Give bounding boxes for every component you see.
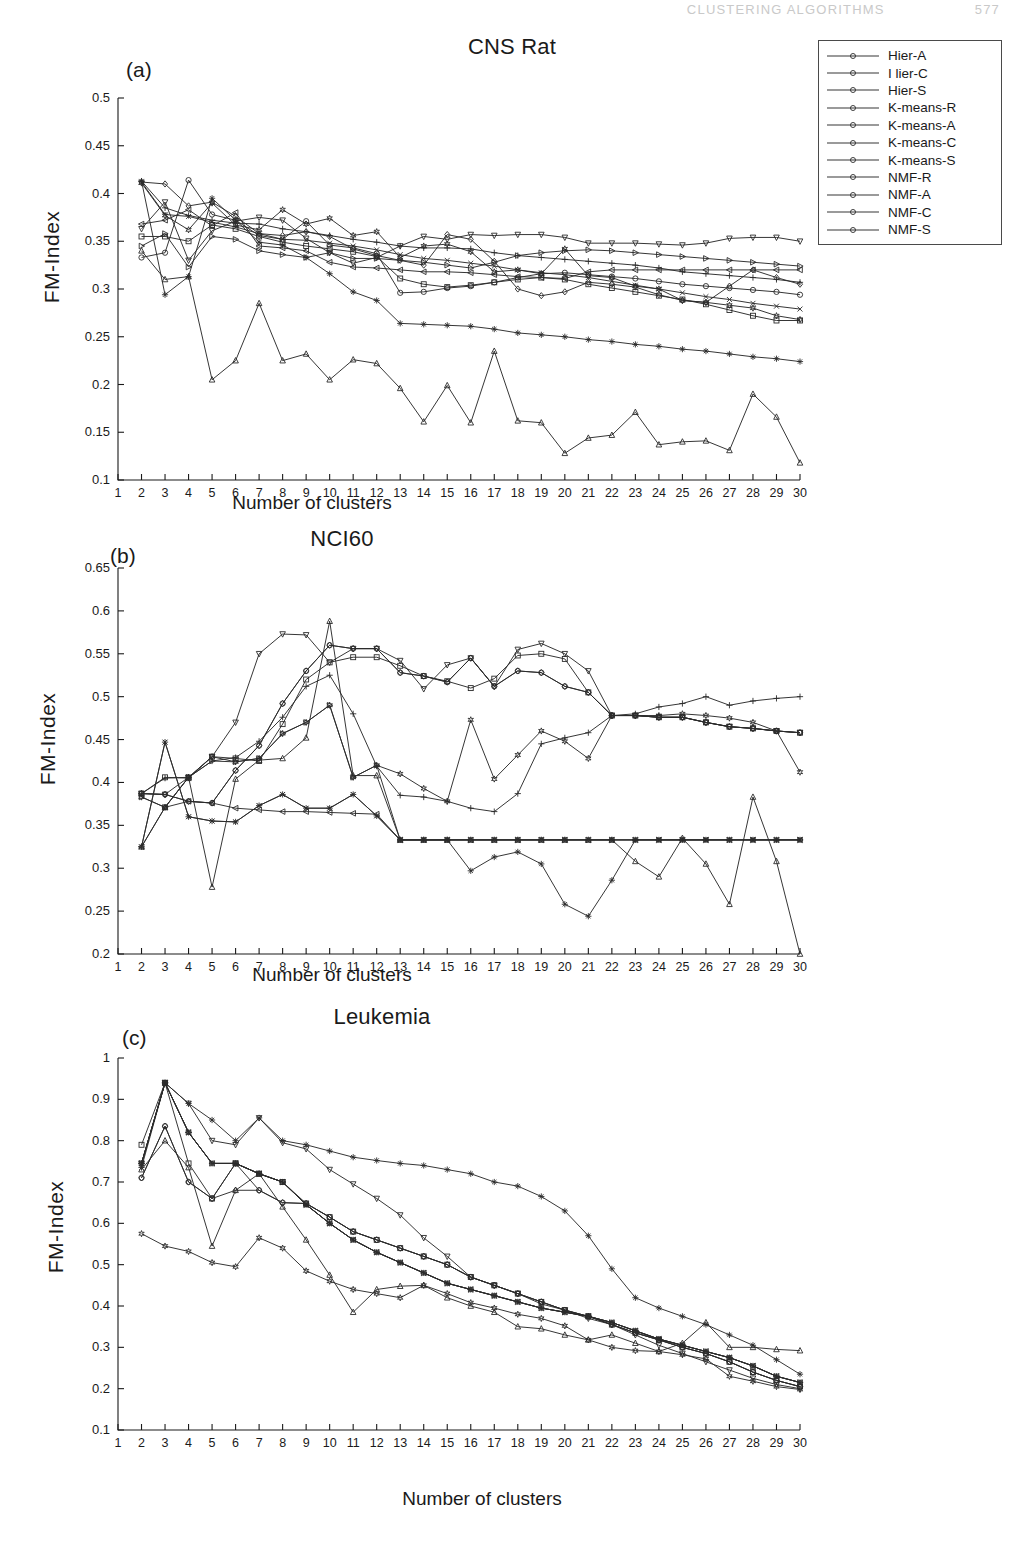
svg-text:4: 4 [185, 1436, 192, 1450]
legend-item-k-means-a: K-means-A [825, 117, 993, 134]
legend-item-label: I lier-C [888, 66, 928, 81]
svg-text:16: 16 [464, 1436, 478, 1450]
svg-text:0.65: 0.65 [85, 560, 110, 575]
cross-icon [825, 117, 881, 133]
svg-text:0.5: 0.5 [92, 689, 110, 704]
svg-text:2: 2 [138, 1436, 145, 1450]
svg-text:23: 23 [628, 1436, 642, 1450]
legend-item-hier-s: Hier-S [825, 82, 993, 99]
legend: Hier-AI lier-CHier-SK-means-RK-means-AK-… [818, 40, 1002, 245]
svg-text:25: 25 [675, 1436, 689, 1450]
svg-text:0.25: 0.25 [85, 903, 110, 918]
diamond-icon [825, 152, 881, 168]
svg-text:8: 8 [279, 1436, 286, 1450]
svg-text:0.3: 0.3 [92, 281, 110, 296]
svg-text:5: 5 [209, 1436, 216, 1450]
panel-b-xlabel: Number of clusters [0, 964, 844, 986]
svg-text:0.45: 0.45 [85, 138, 110, 153]
legend-item-label: K-means-C [888, 135, 956, 150]
running-head: CLUSTERING ALGORITHMS 577 [0, 2, 1024, 20]
svg-text:12: 12 [370, 1436, 384, 1450]
svg-text:0.35: 0.35 [85, 817, 110, 832]
legend-item-label: K-means-R [888, 100, 956, 115]
svg-text:22: 22 [605, 1436, 619, 1450]
svg-text:0.2: 0.2 [92, 377, 110, 392]
svg-text:24: 24 [652, 1436, 666, 1450]
legend-item-hier-a: Hier-A [825, 47, 993, 64]
svg-text:0.5: 0.5 [92, 1257, 110, 1272]
svg-text:0.2: 0.2 [92, 1381, 110, 1396]
svg-text:0.55: 0.55 [85, 646, 110, 661]
svg-text:21: 21 [581, 1436, 595, 1450]
svg-text:29: 29 [770, 1436, 784, 1450]
svg-text:20: 20 [558, 1436, 572, 1450]
circle-icon [825, 65, 881, 81]
triangle-right-icon [825, 204, 881, 220]
panel-c-plot: 0.10.20.30.40.50.60.70.80.91123456789101… [0, 1000, 1024, 1450]
legend-item-label: NMF-S [888, 222, 931, 237]
svg-text:30: 30 [793, 1436, 807, 1450]
svg-text:28: 28 [746, 1436, 760, 1450]
svg-text:0.5: 0.5 [92, 90, 110, 105]
svg-text:0.35: 0.35 [85, 233, 110, 248]
svg-text:0.3: 0.3 [92, 860, 110, 875]
triangle-down-icon [825, 187, 881, 203]
legend-item-label: NMF-R [888, 170, 932, 185]
triangle-left-icon [825, 222, 881, 238]
svg-text:0.6: 0.6 [92, 1215, 110, 1230]
svg-text:0.4: 0.4 [92, 186, 110, 201]
svg-text:7: 7 [256, 1436, 263, 1450]
running-head-title: CLUSTERING ALGORITHMS [687, 2, 885, 17]
legend-item-label: NMF-A [888, 187, 931, 202]
svg-text:3: 3 [162, 1436, 169, 1450]
legend-item-nmf-a: NMF-A [825, 186, 993, 203]
figure-xlabel: Number of clusters [0, 1488, 994, 1510]
svg-text:0.9: 0.9 [92, 1091, 110, 1106]
asterisk-icon [825, 82, 881, 98]
svg-text:9: 9 [303, 1436, 310, 1450]
legend-item-k-means-s: K-means-S [825, 151, 993, 168]
svg-text:11: 11 [347, 1436, 360, 1450]
svg-text:0.45: 0.45 [85, 732, 110, 747]
svg-text:0.1: 0.1 [92, 1422, 110, 1437]
panel-nci60: NCI60 (b) FM-Index 0.20.250.30.350.40.45… [0, 522, 1024, 1012]
legend-item-k-means-c: K-means-C [825, 134, 993, 151]
svg-text:0.4: 0.4 [92, 774, 110, 789]
svg-text:19: 19 [534, 1436, 548, 1450]
legend-item-label: Hier-S [888, 83, 926, 98]
legend-item-label: K-means-A [888, 118, 956, 133]
svg-text:0.7: 0.7 [92, 1174, 110, 1189]
svg-text:14: 14 [417, 1436, 431, 1450]
plus-icon [825, 48, 881, 64]
svg-text:0.6: 0.6 [92, 603, 110, 618]
svg-text:1: 1 [115, 1436, 122, 1450]
figure-page: CLUSTERING ALGORITHMS 577 CNS Rat (a) FM… [0, 0, 1024, 1561]
running-head-page-number: 577 [975, 2, 1000, 17]
panel-b-plot: 0.20.250.30.350.40.450.50.550.60.6512345… [0, 522, 1024, 977]
square-icon [825, 135, 881, 151]
svg-text:13: 13 [393, 1436, 407, 1450]
legend-item-nmf-r: NMF-R [825, 169, 993, 186]
panel-a-xlabel: Number of clusters [0, 492, 824, 514]
svg-text:10: 10 [323, 1436, 337, 1450]
svg-text:0.2: 0.2 [92, 946, 110, 961]
svg-text:17: 17 [487, 1436, 501, 1450]
legend-item-label: Hier-A [888, 48, 926, 63]
legend-item-i-lier-c: I lier-C [825, 64, 993, 81]
svg-text:0.15: 0.15 [85, 424, 110, 439]
legend-item-nmf-c: NMF-C [825, 204, 993, 221]
svg-text:6: 6 [232, 1436, 239, 1450]
legend-item-nmf-s: NMF-S [825, 221, 993, 238]
svg-text:27: 27 [722, 1436, 736, 1450]
legend-item-label: K-means-S [888, 153, 956, 168]
svg-text:0.4: 0.4 [92, 1298, 110, 1313]
star-icon [825, 100, 881, 116]
svg-text:0.8: 0.8 [92, 1133, 110, 1148]
svg-text:0.25: 0.25 [85, 329, 110, 344]
panel-leukemia: Leukemia (c) FM-Index 0.10.20.30.40.50.6… [0, 1000, 1024, 1490]
svg-text:26: 26 [699, 1436, 713, 1450]
legend-item-k-means-r: K-means-R [825, 99, 993, 116]
svg-text:0.3: 0.3 [92, 1339, 110, 1354]
legend-item-label: NMF-C [888, 205, 932, 220]
svg-text:1: 1 [103, 1050, 110, 1065]
